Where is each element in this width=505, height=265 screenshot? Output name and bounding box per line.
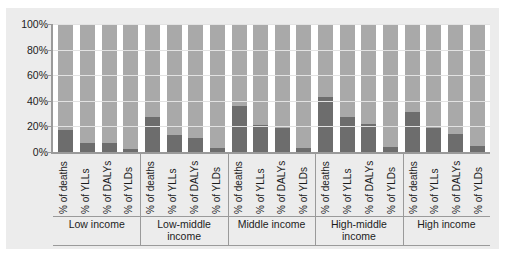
x-label-cell: % of deaths xyxy=(56,154,71,216)
bar-segment-light xyxy=(102,24,117,143)
bar[interactable] xyxy=(318,24,333,152)
bar[interactable] xyxy=(340,24,355,152)
x-group-label: Low-middleincome xyxy=(140,218,227,246)
bar-segment-light xyxy=(405,24,420,112)
y-axis-labels: 0%20%40%60%80%100% xyxy=(6,18,48,160)
x-group-label-line1: Middle income xyxy=(228,219,315,231)
x-label-cell: % of YLLs xyxy=(428,154,443,216)
y-tick-mark xyxy=(45,126,51,127)
x-label-group: % of deaths% of YLLs% of DALYs% of YLDs xyxy=(140,154,227,216)
bar-segment-light xyxy=(210,24,225,148)
y-tick-mark xyxy=(45,50,51,51)
bar-segment-light xyxy=(58,24,73,130)
x-axis-group-labels: Low incomeLow-middleincomeMiddle incomeH… xyxy=(53,218,490,246)
y-tick-label: 0% xyxy=(6,147,48,158)
x-label-cell: % of deaths xyxy=(406,154,421,216)
x-group-label: Low income xyxy=(53,218,140,246)
x-group-label-line1: Low income xyxy=(53,219,140,231)
x-label-cell: % of DALYs xyxy=(362,154,377,216)
bar-group xyxy=(228,24,315,152)
y-tick-label: 60% xyxy=(6,70,48,81)
bar-segment-light xyxy=(188,24,203,138)
bar-group xyxy=(55,24,142,152)
x-label-cell: % of YLDs xyxy=(472,154,487,216)
x-group-label-line1: High income xyxy=(403,219,490,231)
x-label-cell: % of deaths xyxy=(231,154,246,216)
bar-segment-dark xyxy=(275,128,290,152)
bar-segment-dark xyxy=(167,135,182,152)
bar-segment-dark xyxy=(58,130,73,152)
bar-segment-light xyxy=(296,24,311,148)
bar[interactable] xyxy=(102,24,117,152)
x-label-group: % of deaths% of YLLs% of DALYs% of YLDs xyxy=(228,154,315,216)
y-tick-label: 100% xyxy=(6,19,48,30)
bar-group xyxy=(315,24,402,152)
x-measure-label: % of deaths xyxy=(321,161,331,214)
x-measure-label: % of deaths xyxy=(59,161,69,214)
bar[interactable] xyxy=(426,24,441,152)
x-label-cell: % of DALYs xyxy=(450,154,465,216)
bar-segment-dark xyxy=(318,97,333,152)
x-group-label: High income xyxy=(403,218,490,246)
bar-group xyxy=(142,24,229,152)
bar-segment-dark xyxy=(426,128,441,152)
bar-segment-light xyxy=(123,24,138,149)
x-label-cell: % of YLDs xyxy=(297,154,312,216)
bar[interactable] xyxy=(145,24,160,152)
bar[interactable] xyxy=(361,24,376,152)
bar-segment-dark xyxy=(405,112,420,152)
x-measure-label: % of YLDs xyxy=(212,167,222,214)
x-measure-label: % of DALYs xyxy=(452,161,462,214)
x-label-cell: % of DALYs xyxy=(275,154,290,216)
bar[interactable] xyxy=(470,24,485,152)
x-group-label: Middle income xyxy=(228,218,315,246)
bar-segment-dark xyxy=(232,106,247,152)
x-measure-label: % of deaths xyxy=(409,161,419,214)
bar[interactable] xyxy=(80,24,95,152)
bar[interactable] xyxy=(188,24,203,152)
bar[interactable] xyxy=(123,24,138,152)
bar[interactable] xyxy=(296,24,311,152)
x-measure-label: % of DALYs xyxy=(277,161,287,214)
x-measure-label: % of YLDs xyxy=(387,167,397,214)
gridline xyxy=(53,101,490,102)
gridline xyxy=(53,24,490,25)
x-group-label-line1: High-middle xyxy=(315,219,402,231)
x-label-cell: % of YLLs xyxy=(340,154,355,216)
x-label-group: % of deaths% of YLLs% of DALYs% of YLDs xyxy=(315,154,402,216)
bar-segment-light xyxy=(80,24,95,143)
bar[interactable] xyxy=(253,24,268,152)
x-label-cell: % of DALYs xyxy=(188,154,203,216)
x-label-group: % of deaths% of YLLs% of DALYs% of YLDs xyxy=(403,154,490,216)
bar-group xyxy=(401,24,488,152)
bar[interactable] xyxy=(275,24,290,152)
bar-segment-dark xyxy=(253,125,268,152)
x-label-cell: % of YLLs xyxy=(78,154,93,216)
bar-segment-dark xyxy=(361,124,376,152)
bar[interactable] xyxy=(210,24,225,152)
y-tick-label: 20% xyxy=(6,121,48,132)
bar[interactable] xyxy=(383,24,398,152)
bar[interactable] xyxy=(405,24,420,152)
bar-segment-dark xyxy=(340,117,355,152)
x-measure-label: % of YLLs xyxy=(343,169,353,214)
x-label-cell: % of deaths xyxy=(319,154,334,216)
bar[interactable] xyxy=(58,24,73,152)
x-label-cell: % of YLDs xyxy=(209,154,224,216)
bar-segment-light xyxy=(340,24,355,117)
x-label-group: % of deaths% of YLLs% of DALYs% of YLDs xyxy=(53,154,140,216)
x-measure-label: % of deaths xyxy=(146,161,156,214)
gridline xyxy=(53,75,490,76)
bar-segment-dark xyxy=(102,143,117,152)
bar-segment-light xyxy=(383,24,398,147)
bar[interactable] xyxy=(448,24,463,152)
x-measure-label: % of DALYs xyxy=(190,161,200,214)
label-band-top-rule xyxy=(53,216,490,217)
y-tick-label: 80% xyxy=(6,44,48,55)
x-measure-label: % of YLLs xyxy=(256,169,266,214)
y-tick-mark xyxy=(45,75,51,76)
bar-segment-dark xyxy=(448,134,463,152)
bar[interactable] xyxy=(167,24,182,152)
bar[interactable] xyxy=(232,24,247,152)
gridline xyxy=(53,126,490,127)
